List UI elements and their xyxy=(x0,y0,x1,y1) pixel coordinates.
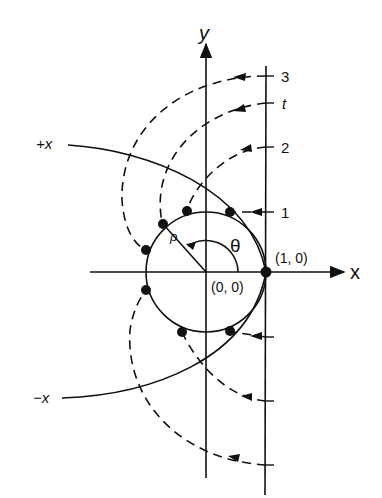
flow-arrows xyxy=(100,0,262,462)
y-axis-label: y xyxy=(197,22,210,44)
tick-label-t: t xyxy=(282,95,287,112)
theta-label: θ xyxy=(230,235,241,256)
tick-label-1: 1 xyxy=(281,204,289,221)
unit-point-label: (1, 0) xyxy=(275,250,308,266)
line-x-equals-1 xyxy=(265,66,274,495)
rho-label: ρ xyxy=(169,229,178,244)
origin-label: (0, 0) xyxy=(211,279,244,295)
x-axis-label: x xyxy=(350,261,360,283)
polar-mapping-diagram: y x (0, 0) (1, 0) θ ρ +x −x 3 t 2 1 xyxy=(0,0,382,498)
minus-x-label: −x xyxy=(33,389,50,406)
tick-label-3: 3 xyxy=(281,68,289,85)
tick-label-2: 2 xyxy=(281,139,289,156)
plus-x-label: +x xyxy=(36,135,53,152)
